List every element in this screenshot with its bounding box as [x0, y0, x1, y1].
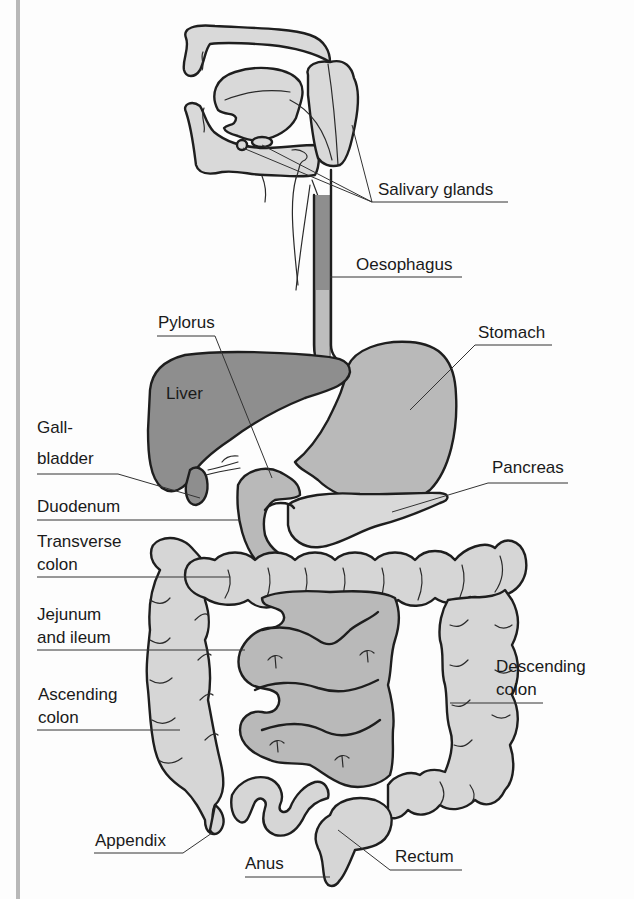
label-rectum: Rectum: [395, 847, 454, 866]
label-jejunum-line2: and ileum: [37, 628, 111, 647]
label-jejunum-line1: Jejunum: [37, 605, 101, 624]
label-anus: Anus: [245, 854, 284, 873]
pancreas: [288, 493, 448, 547]
descending-colon: [388, 590, 518, 818]
label-gall-bladder-line2: bladder: [37, 449, 94, 468]
gallbladder: [186, 468, 208, 505]
sigmoid-colon: [231, 777, 328, 835]
label-ascending-colon-line1: Ascending: [38, 685, 117, 704]
label-duodenum: Duodenum: [37, 497, 120, 516]
parotid-gland: [308, 61, 358, 166]
label-transverse-colon-line2: colon: [37, 555, 78, 574]
label-descending-colon-line1: Descending: [496, 657, 586, 676]
digestive-system-diagram: Salivary glands Oesophagus Pylorus Stoma…: [0, 0, 634, 899]
label-pancreas: Pancreas: [492, 458, 564, 477]
label-salivary-glands: Salivary glands: [378, 180, 493, 199]
label-liver: Liver: [166, 384, 203, 403]
small-intestine: [239, 591, 399, 787]
label-pylorus: Pylorus: [158, 313, 215, 332]
tongue: [214, 68, 302, 141]
label-stomach: Stomach: [478, 323, 545, 342]
sublingual-gland: [237, 140, 247, 150]
label-oesophagus: Oesophagus: [356, 255, 452, 274]
label-descending-colon-line2: colon: [496, 680, 537, 699]
label-appendix: Appendix: [95, 831, 166, 850]
label-ascending-colon-line2: colon: [38, 708, 79, 727]
label-transverse-colon-line1: Transverse: [37, 532, 121, 551]
label-gall-bladder-line1: Gall-: [37, 418, 73, 437]
